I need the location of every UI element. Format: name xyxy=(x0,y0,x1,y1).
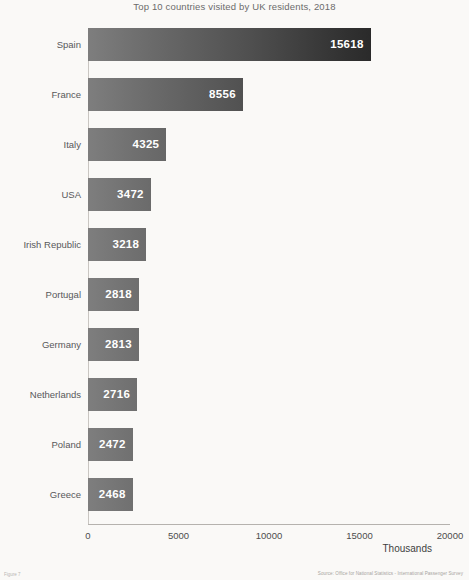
category-label: Netherlands xyxy=(30,378,81,411)
category-label: Spain xyxy=(57,28,81,61)
bar-row: Germany2813 xyxy=(88,328,450,361)
bar-row: USA3472 xyxy=(88,178,450,211)
category-label: Portugal xyxy=(46,278,81,311)
x-axis-title: Thousands xyxy=(0,543,450,554)
category-label: USA xyxy=(61,178,81,211)
x-axis-tick-label: 0 xyxy=(85,530,90,541)
bar-value-label: 2716 xyxy=(103,378,130,411)
x-axis-tick-label: 15000 xyxy=(346,530,372,541)
bar: 2813 xyxy=(88,328,139,361)
bar: 3218 xyxy=(88,228,146,261)
bar-row: Greece2468 xyxy=(88,478,450,511)
category-label: Italy xyxy=(64,128,81,161)
category-label: Greece xyxy=(50,478,81,511)
category-label: France xyxy=(51,78,81,111)
bar: 8556 xyxy=(88,78,243,111)
source-note: Source: Office for National Statistics -… xyxy=(318,571,463,576)
bar: 15618 xyxy=(88,28,371,61)
bar-value-label: 2468 xyxy=(99,478,126,511)
bar: 3472 xyxy=(88,178,151,211)
bar: 2818 xyxy=(88,278,139,311)
bar-row: Spain15618 xyxy=(88,28,450,61)
bar-row: Irish Republic3218 xyxy=(88,228,450,261)
plot-area: Spain15618France8556Italy4325USA3472Iris… xyxy=(88,28,450,524)
figure-caption: Figure 7 xyxy=(4,572,21,577)
bar-value-label: 2472 xyxy=(99,428,126,461)
x-axis-line xyxy=(88,524,450,525)
category-label: Poland xyxy=(51,428,81,461)
bar-value-label: 8556 xyxy=(209,78,236,111)
bar-value-label: 15618 xyxy=(330,28,363,61)
bar-value-label: 3218 xyxy=(112,228,139,261)
chart-title: Top 10 countries visited by UK residents… xyxy=(0,1,469,12)
bar-value-label: 3472 xyxy=(117,178,144,211)
bar-value-label: 2813 xyxy=(105,328,132,361)
chart-figure: Top 10 countries visited by UK residents… xyxy=(0,0,469,580)
category-label: Germany xyxy=(42,328,81,361)
x-axis-tick-label: 20000 xyxy=(437,530,463,541)
bar-value-label: 4325 xyxy=(132,128,159,161)
x-axis-tick-label: 5000 xyxy=(168,530,189,541)
bar-value-label: 2818 xyxy=(105,278,132,311)
bar: 4325 xyxy=(88,128,166,161)
bar-row: Portugal2818 xyxy=(88,278,450,311)
bar: 2716 xyxy=(88,378,137,411)
bar: 2468 xyxy=(88,478,133,511)
bar-row: Poland2472 xyxy=(88,428,450,461)
x-axis-tick-label: 10000 xyxy=(256,530,282,541)
bar-row: Netherlands2716 xyxy=(88,378,450,411)
bar: 2472 xyxy=(88,428,133,461)
bar-row: France8556 xyxy=(88,78,450,111)
category-label: Irish Republic xyxy=(23,228,81,261)
bar-row: Italy4325 xyxy=(88,128,450,161)
